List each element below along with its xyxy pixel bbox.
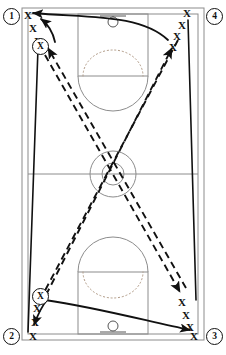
bottom-key-lane xyxy=(78,272,148,334)
movement-lines xyxy=(28,13,196,332)
station-badge-2[interactable]: 2 xyxy=(3,328,20,345)
run-line-right-sideline xyxy=(188,20,196,300)
player-mark: X xyxy=(183,8,191,19)
top-dotted-circle xyxy=(83,50,143,76)
player-mark: X xyxy=(169,42,177,53)
player-mark: X xyxy=(190,331,198,342)
bottom-freethrow-arc xyxy=(78,237,148,272)
pass-lines xyxy=(40,40,186,300)
top-freethrow-arc xyxy=(78,76,148,111)
ball-handler-bottom: X xyxy=(32,288,49,305)
station-badge-4[interactable]: 4 xyxy=(206,8,223,25)
player-mark: X xyxy=(31,317,39,328)
station-badge-1[interactable]: 1 xyxy=(3,8,20,25)
player-mark: X xyxy=(24,10,32,21)
basketball-court-diagram: 1 4 2 3 X X X X X X X X X X X X X X X X xyxy=(0,0,226,355)
player-mark: X xyxy=(29,23,37,34)
station-badge-3[interactable]: 3 xyxy=(206,328,223,345)
player-mark: X xyxy=(178,297,186,308)
ball-handler-top: X xyxy=(32,38,49,55)
bottom-hoop xyxy=(108,321,118,331)
bottom-dotted-circle xyxy=(83,272,143,298)
player-mark: X xyxy=(182,310,190,321)
player-mark: X xyxy=(29,331,37,342)
